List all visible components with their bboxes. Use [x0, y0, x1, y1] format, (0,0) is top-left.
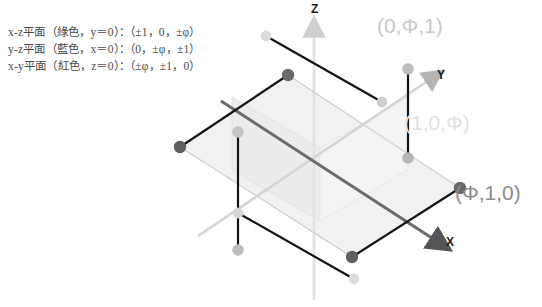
vertex-dot — [377, 97, 388, 108]
vertex-dot — [261, 31, 272, 42]
vertex-dot — [402, 152, 414, 164]
vertex-dot — [402, 63, 414, 75]
axis-label-x: X — [446, 235, 454, 249]
diagram-page: x-z平面（綠色，y＝0）：（±1，0，±φ） y-z平面（藍色，x＝0）：（0… — [0, 0, 542, 307]
vertex-dot — [233, 208, 244, 219]
coordinate-label-1-0-phi: (1,0,Φ) — [404, 111, 470, 135]
vertex-dot — [346, 251, 358, 263]
axis-label-y: Y — [437, 68, 445, 82]
vertex-dot — [232, 244, 244, 256]
coordinate-label-0-phi-1: (0,Φ,1) — [377, 14, 443, 38]
vertex-dot — [174, 141, 186, 153]
three-orthogonal-golden-rectangles-figure — [0, 0, 542, 307]
coordinate-label-phi-1-0: (Φ,1,0) — [455, 181, 521, 205]
vertex-dot — [282, 69, 294, 81]
vertex-dot — [232, 126, 244, 138]
vertex-dot — [349, 274, 360, 285]
axis-label-z: Z — [311, 2, 318, 16]
